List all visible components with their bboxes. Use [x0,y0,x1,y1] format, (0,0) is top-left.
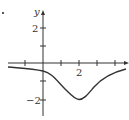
y-tick-label-2: 2 [32,23,38,34]
y-axis-arrow-icon [41,10,45,15]
stray-mark [2,12,4,14]
y-axis-label: y [33,6,40,17]
y-tick-label-neg2: −2 [26,95,41,106]
function-graph: y 2 2 −2 [0,0,129,120]
x-axis-arrow-icon [124,61,129,65]
x-tick-label-2: 2 [76,67,82,78]
